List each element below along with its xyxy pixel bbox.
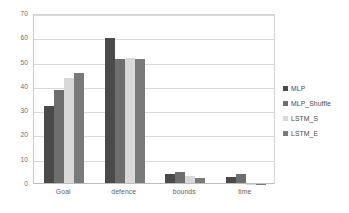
legend-swatch-icon xyxy=(283,101,288,106)
bar[interactable] xyxy=(135,59,145,184)
x-tick-label: defence xyxy=(111,188,136,195)
bar-group xyxy=(216,15,277,184)
bar-groups xyxy=(34,15,274,184)
bar[interactable] xyxy=(44,106,54,184)
x-tick-label: Goal xyxy=(56,188,71,195)
legend-label: MLP_Shuffle xyxy=(291,100,331,107)
legend-swatch-icon xyxy=(283,86,288,91)
legend-label: MLP xyxy=(291,85,305,92)
bar-group xyxy=(34,15,95,184)
x-axis-baseline xyxy=(34,183,274,184)
y-tick-label: 60 xyxy=(21,35,28,42)
x-tick-label: bounds xyxy=(173,188,196,195)
y-tick-label: 10 xyxy=(21,156,28,163)
y-tick-label: 30 xyxy=(21,108,28,115)
legend-item[interactable]: MLP_Shuffle xyxy=(283,97,347,110)
legend-label: LSTM_S xyxy=(291,115,318,122)
y-tick-label: 0 xyxy=(24,181,28,188)
y-tick-label: 70 xyxy=(21,11,28,18)
x-axis: Goaldefenceboundstime xyxy=(33,188,275,206)
legend-swatch-icon xyxy=(283,116,288,121)
legend-label: LSTM_E xyxy=(291,130,318,137)
legend-item[interactable]: LSTM_E xyxy=(283,127,347,140)
y-axis: 010203040506070 xyxy=(0,0,31,213)
bar[interactable] xyxy=(115,59,125,184)
bar[interactable] xyxy=(125,58,135,184)
bar[interactable] xyxy=(64,78,74,184)
bar-group xyxy=(155,15,216,184)
bar-group xyxy=(95,15,156,184)
x-tick-label: time xyxy=(238,188,251,195)
plot-area xyxy=(33,14,275,184)
bar[interactable] xyxy=(74,73,84,184)
bar[interactable] xyxy=(105,38,115,184)
legend-item[interactable]: LSTM_S xyxy=(283,112,347,125)
y-tick-label: 50 xyxy=(21,59,28,66)
legend-swatch-icon xyxy=(283,131,288,136)
bar[interactable] xyxy=(54,90,64,184)
y-tick-label: 20 xyxy=(21,132,28,139)
legend-item[interactable]: MLP xyxy=(283,82,347,95)
bar-chart: 010203040506070 Goaldefenceboundstime ML… xyxy=(0,0,349,213)
y-tick-label: 40 xyxy=(21,84,28,91)
chart-legend: MLPMLP_ShuffleLSTM_SLSTM_E xyxy=(283,82,347,142)
